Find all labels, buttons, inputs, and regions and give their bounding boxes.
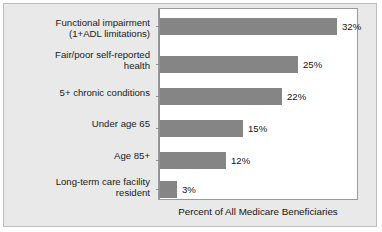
category-label-ltc-facility-resident: Long-term care facility resident [4, 176, 150, 199]
bar-chart: Functional impairment (1+ADL limitations… [3, 3, 377, 227]
bar-under-age-65 [160, 120, 243, 137]
bar-fair-poor-health [160, 56, 298, 73]
bar-age-85-plus [160, 152, 226, 169]
category-label-chronic-conditions: 5+ chronic conditions [4, 87, 150, 98]
category-label-under-age-65: Under age 65 [4, 118, 150, 129]
bar-value-label: 25% [303, 58, 322, 71]
category-label-functional-impairment: Functional impairment (1+ADL limitations… [4, 17, 150, 40]
x-axis-title: Percent of All Medicare Beneficiaries [158, 206, 358, 217]
bar-functional-impairment [160, 18, 337, 35]
bar-value-label: 12% [231, 154, 250, 167]
bar-value-label: 3% [182, 183, 196, 196]
category-label-age-85-plus: Age 85+ [4, 150, 150, 161]
bar-chronic-conditions [160, 88, 282, 105]
bar-ltc-facility-resident [160, 181, 177, 198]
category-axis-labels: Functional impairment (1+ADL limitations… [4, 8, 156, 200]
category-label-fair-poor-health: Fair/poor self-reported health [4, 49, 150, 72]
bar-value-label: 22% [287, 90, 306, 103]
bar-value-label: 15% [248, 122, 267, 135]
plot-area: 32% 25% 22% 15% 12% 3% [158, 8, 358, 200]
bar-value-label: 32% [342, 20, 361, 33]
